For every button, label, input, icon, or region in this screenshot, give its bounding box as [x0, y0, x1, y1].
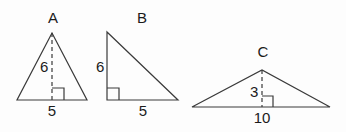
triangle-c-name-label: C	[258, 44, 269, 59]
triangle-a-name-label: A	[48, 10, 58, 25]
triangle-b-name-label: B	[137, 10, 147, 25]
triangle-b-height-label: 6	[96, 59, 104, 74]
triangle-c-base-label: 10	[254, 110, 271, 125]
triangle-c-group	[192, 70, 330, 107]
triangle-b-base-label: 5	[139, 103, 147, 118]
triangle-a-right-angle-icon	[52, 88, 64, 100]
triangles-figure: A B C 6 6 3 5 5 10	[0, 0, 346, 132]
triangle-b-right-angle-icon	[107, 88, 119, 100]
triangle-b-outline	[107, 32, 178, 100]
triangle-b-group	[107, 32, 178, 100]
triangle-c-right-angle-icon	[262, 96, 273, 107]
triangle-c-outline	[192, 70, 330, 107]
triangle-a-height-label: 6	[40, 59, 48, 74]
triangle-c-height-label: 3	[250, 84, 258, 99]
triangle-a-base-label: 5	[48, 103, 56, 118]
triangle-a-group	[17, 33, 87, 100]
